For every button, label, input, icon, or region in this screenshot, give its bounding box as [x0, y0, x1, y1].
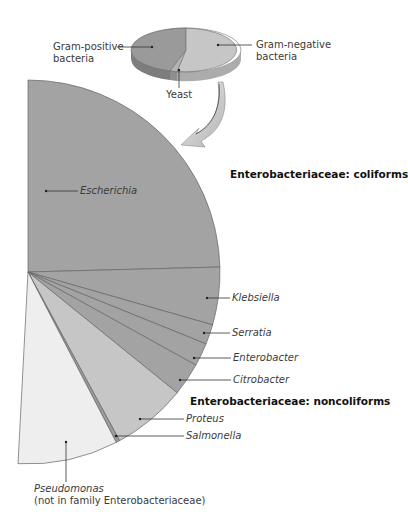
overview-pie: [117, 28, 252, 88]
label-proteus: Proteus: [186, 413, 224, 425]
label-gram-positive-line2: bacteria: [53, 53, 124, 65]
label-yeast: Yeast: [166, 89, 192, 101]
label-salmonella: Salmonella: [186, 430, 241, 442]
label-gram-negative-line1: Gram-negative: [256, 39, 331, 51]
label-pseudomonas-name: Pseudomonas: [34, 483, 205, 495]
label-gram-negative: Gram-negative bacteria: [256, 39, 331, 63]
label-gram-negative-line2: bacteria: [256, 51, 331, 63]
heading-coliforms: Enterobacteriaceae: coliforms: [230, 168, 408, 180]
slice-escherichia: [28, 80, 220, 272]
heading-noncoliforms: Enterobacteriaceae: noncoliforms: [190, 395, 390, 407]
label-serratia: Serratia: [232, 327, 272, 339]
label-gram-positive: Gram-positive bacteria: [53, 41, 124, 65]
overview-pie-rim-yeast: [170, 71, 177, 81]
label-pseudomonas-note: (not in family Enterobacteriaceae): [34, 495, 205, 507]
label-pseudomonas: Pseudomonas (not in family Enterobacteri…: [34, 483, 205, 507]
label-enterobacter: Enterobacter: [233, 352, 298, 364]
label-gram-positive-line1: Gram-positive: [53, 41, 124, 53]
label-citrobacter: Citrobacter: [233, 374, 289, 386]
label-klebsiella: Klebsiella: [232, 292, 280, 304]
label-escherichia: Escherichia: [80, 185, 137, 197]
